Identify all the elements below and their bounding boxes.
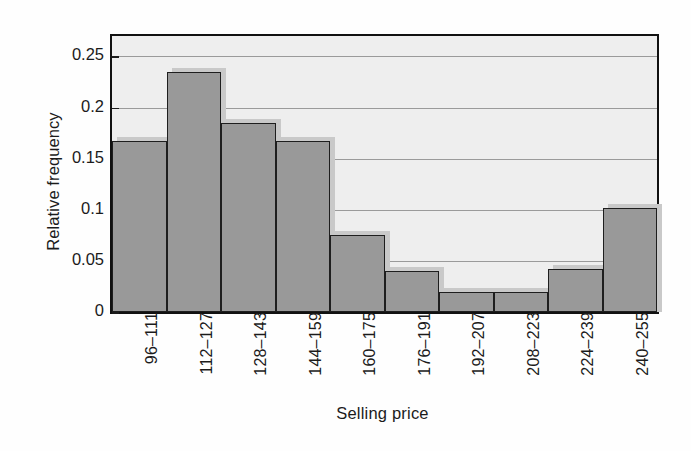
histogram-bars: [112, 36, 657, 312]
histogram-bar: [439, 292, 494, 312]
histogram-bar: [603, 208, 658, 312]
y-axis-tick-label: 0.25: [42, 45, 104, 64]
y-axis-tick-label: 0.05: [42, 249, 104, 268]
x-axis-tick-label: 144–159: [307, 312, 325, 412]
histogram-bar: [330, 235, 385, 312]
histogram-bar: [385, 271, 440, 312]
x-axis-tick-label: 176–191: [416, 312, 434, 412]
y-axis-tick-label: 0.15: [42, 147, 104, 166]
histogram-bar: [112, 141, 167, 312]
plot-area: [110, 34, 659, 314]
histogram-bar: [221, 123, 276, 312]
histogram-bar: [494, 292, 549, 312]
x-axis-tick-label: 160–175: [361, 312, 379, 412]
histogram-figure: Relative frequency 00.050.10.150.20.25 9…: [0, 0, 691, 451]
x-axis-tick-label: 192–207: [470, 312, 488, 412]
x-axis-tick-label: 112–127: [198, 312, 216, 412]
x-axis-tick-label: 96–111: [143, 312, 161, 412]
y-axis-tick-label: 0.2: [42, 96, 104, 115]
x-axis-tick-label: 128–143: [252, 312, 270, 412]
y-axis-tick-label: 0: [42, 301, 104, 320]
x-axis-tick-label: 208–223: [525, 312, 543, 412]
x-axis-tick-labels: 96–111112–127128–143144–159160–175176–19…: [110, 312, 655, 402]
x-axis-tick-label: 224–239: [579, 312, 597, 412]
histogram-bar: [276, 141, 331, 312]
x-axis-title: Selling price: [110, 404, 655, 423]
x-axis-tick-label: 240–255: [634, 312, 652, 412]
y-axis-tick-label: 0.1: [42, 198, 104, 217]
y-axis-tick-labels: 00.050.10.150.20.25: [42, 34, 104, 310]
histogram-bar: [167, 72, 222, 312]
histogram-bar: [548, 269, 603, 312]
